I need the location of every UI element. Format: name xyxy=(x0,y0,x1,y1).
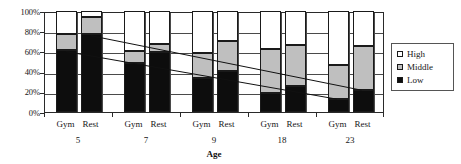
bar-segment-middle xyxy=(260,49,281,92)
bar-rest-age-23 xyxy=(353,11,374,112)
y-tick-label: 80% xyxy=(25,28,40,37)
y-tick-label: 60% xyxy=(25,48,40,57)
x-tick-mark xyxy=(316,113,317,117)
bar-rest-age-5 xyxy=(81,11,102,112)
legend-label: High xyxy=(407,49,425,59)
bar-segment-high xyxy=(192,11,213,53)
bar-gym-age-5 xyxy=(56,11,77,112)
gridline-vertical xyxy=(213,13,214,112)
legend-label: Middle xyxy=(407,62,433,72)
bar-segment-middle xyxy=(328,65,349,99)
gridline-vertical xyxy=(374,13,375,112)
y-axis-labels: 100%80%60%40%20%0% xyxy=(6,0,40,164)
legend-item-low[interactable]: Low xyxy=(397,74,449,86)
bar-segment-high xyxy=(353,11,374,46)
plot-area xyxy=(44,12,384,113)
legend-label: Low xyxy=(407,75,424,85)
bar-segment-high xyxy=(285,11,306,45)
bar-segment-middle xyxy=(285,45,306,85)
x-tick-mark xyxy=(180,113,181,117)
legend-item-middle[interactable]: Middle xyxy=(397,61,449,73)
stacked-bar-chart: 100%80%60%40%20%0% GymRestGymRestGymRest… xyxy=(0,0,461,164)
group-label-age-9: 9 xyxy=(194,135,234,145)
category-label-rest-age-18: Rest xyxy=(275,119,315,129)
legend-item-high[interactable]: High xyxy=(397,48,449,60)
category-label-rest-age-7: Rest xyxy=(139,119,179,129)
bar-rest-age-9 xyxy=(217,11,238,112)
bar-segment-low xyxy=(192,78,213,112)
legend-swatch-high-icon xyxy=(397,51,403,57)
group-label-age-7: 7 xyxy=(126,135,166,145)
bar-segment-low xyxy=(353,90,374,112)
y-tick-label: 20% xyxy=(25,88,40,97)
bar-segment-low xyxy=(149,52,170,112)
bar-rest-age-7 xyxy=(149,11,170,112)
bar-segment-low xyxy=(81,34,102,112)
x-tick-mark xyxy=(112,113,113,117)
gridline-vertical xyxy=(306,13,307,112)
bar-segment-high xyxy=(149,11,170,44)
bar-segment-middle xyxy=(81,17,102,34)
bar-segment-high xyxy=(217,11,238,41)
gridline-vertical xyxy=(145,13,146,112)
bar-segment-middle xyxy=(149,44,170,52)
bar-gym-age-9 xyxy=(192,11,213,112)
x-axis-title: Age xyxy=(194,149,234,159)
category-label-rest-age-5: Rest xyxy=(71,119,111,129)
chart-legend: HighMiddleLow xyxy=(391,43,454,91)
bar-segment-low xyxy=(217,71,238,112)
gridline-vertical xyxy=(238,13,239,112)
gridline-vertical xyxy=(281,13,282,112)
bar-segment-low xyxy=(124,63,145,112)
y-tick-label: 100% xyxy=(21,8,40,17)
gridline-vertical xyxy=(102,13,103,112)
bar-segment-middle xyxy=(124,51,145,62)
category-label-rest-age-9: Rest xyxy=(207,119,247,129)
y-tick-label: 0% xyxy=(29,109,40,118)
bar-segment-middle xyxy=(56,34,77,50)
bar-gym-age-18 xyxy=(260,11,281,112)
gridline-vertical xyxy=(349,13,350,112)
gridline-vertical xyxy=(77,13,78,112)
x-tick-mark xyxy=(248,113,249,117)
legend-swatch-middle-icon xyxy=(397,64,403,70)
bar-segment-middle xyxy=(217,41,238,70)
x-axis-tick-marks xyxy=(44,113,384,117)
bar-segment-low xyxy=(56,50,77,112)
bar-segment-low xyxy=(328,99,349,112)
bar-segment-low xyxy=(260,93,281,112)
gridline-vertical xyxy=(170,13,171,112)
bar-segment-high xyxy=(56,11,77,34)
group-label-age-5: 5 xyxy=(58,135,98,145)
bar-rest-age-18 xyxy=(285,11,306,112)
group-label-age-18: 18 xyxy=(262,135,302,145)
y-tick-label: 40% xyxy=(25,68,40,77)
bar-segment-high xyxy=(260,11,281,49)
bar-gym-age-7 xyxy=(124,11,145,112)
bar-segment-low xyxy=(285,86,306,112)
x-tick-mark xyxy=(44,113,45,117)
legend-swatch-low-icon xyxy=(397,77,403,83)
bar-segment-middle xyxy=(353,46,374,89)
bar-gym-age-23 xyxy=(328,11,349,112)
group-label-age-23: 23 xyxy=(330,135,370,145)
bar-segment-high xyxy=(124,11,145,51)
category-label-rest-age-23: Rest xyxy=(343,119,383,129)
x-tick-mark xyxy=(383,113,384,117)
bar-segment-high xyxy=(328,11,349,65)
bar-segment-middle xyxy=(192,53,213,77)
